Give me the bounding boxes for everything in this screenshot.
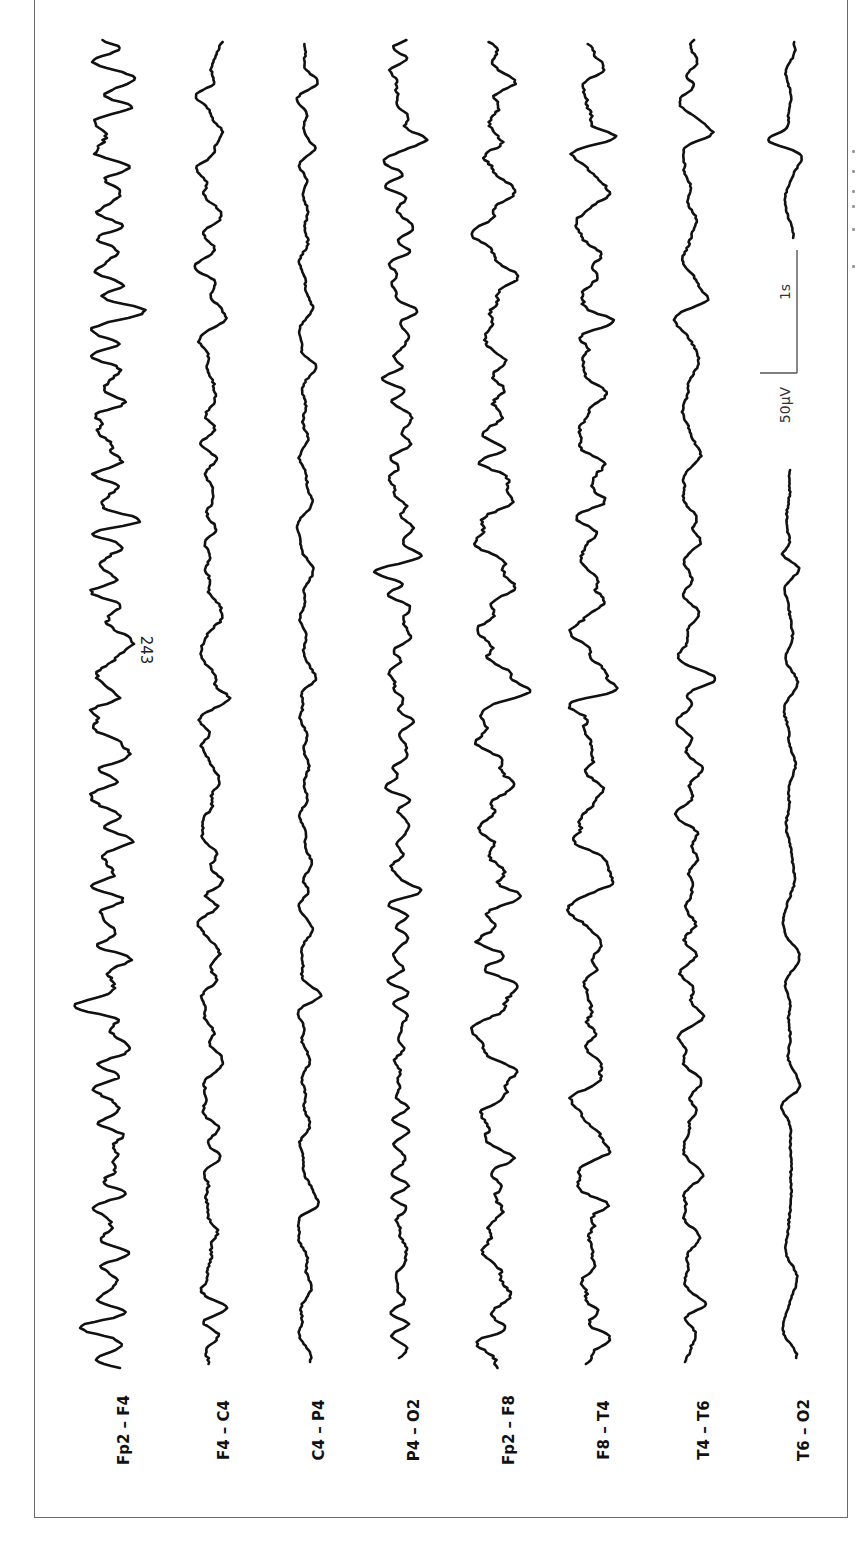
channel-label-p4-o2: P4 – O2: [404, 1370, 424, 1490]
caption-fragment: [852, 150, 855, 153]
channel-label-c4-p4: C4 – P4: [309, 1370, 329, 1490]
caption-fragment: [852, 265, 855, 268]
caption-fragment: [852, 190, 855, 193]
caption-fragment: [852, 205, 855, 208]
eeg-trace-p4-o2: [374, 40, 427, 1358]
eeg-trace-f8-t4: [567, 44, 617, 1364]
channel-label-t4-t6: T4 – T6: [694, 1370, 714, 1490]
caption-fragment: [852, 228, 855, 231]
eeg-traces-canvas: [0, 0, 857, 1556]
eeg-trace-f4-c4: [195, 42, 230, 1364]
page-annotation-243: 243: [137, 630, 155, 670]
scale-bar-amplitude-label: 50µV: [776, 375, 794, 435]
eeg-trace-fp2-f4: [75, 40, 146, 1368]
eeg-trace-fp2-f8: [471, 42, 530, 1368]
eeg-trace-c4-p4: [297, 44, 322, 1362]
channel-label-fp2-f4: Fp2 – F4: [114, 1370, 134, 1490]
eeg-trace-t4-t6: [674, 40, 715, 1362]
eeg-trace-t6-o2-seg2: [781, 470, 800, 1358]
channel-label-f8-t4: F8 – T4: [594, 1370, 614, 1490]
channel-label-t6-o2: T6 – O2: [794, 1370, 814, 1490]
caption-fragment: [852, 170, 855, 173]
channel-label-f4-c4: F4 – C4: [214, 1370, 234, 1490]
channel-label-fp2-f8: Fp2 – F8: [499, 1370, 519, 1490]
scale-bar-time-label: 1s: [776, 262, 794, 322]
eeg-trace-t6-o2-seg1: [768, 42, 801, 238]
